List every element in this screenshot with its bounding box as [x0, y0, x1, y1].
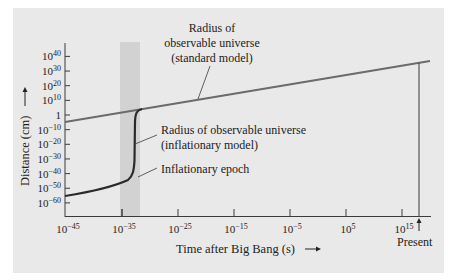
x-tick-label: 1015	[395, 222, 414, 235]
x-tick-label: 10−35	[112, 222, 136, 235]
y-axis-arrow-head	[23, 87, 28, 92]
standard-label-line3: (standard model)	[171, 51, 253, 65]
x-tick-label: 105	[341, 222, 356, 235]
x-tick-label: 10−5	[282, 222, 302, 235]
y-tick-label: 10−50	[37, 181, 61, 194]
y-tick-label: 1020	[42, 79, 61, 92]
y-tick-label: 10−40	[37, 167, 61, 180]
y-tick-label: 1	[56, 109, 62, 121]
y-tick-label: 10−10	[37, 123, 61, 136]
y-axis-title: Distance (cm)	[18, 116, 32, 186]
chart-svg: 1040103010201010110−1010−2010−3010−4010−…	[0, 0, 459, 280]
x-tick-label: 10−15	[224, 222, 248, 235]
y-tick-label: 1030	[42, 64, 61, 77]
x-ticks: 10−4510−3510−2510−1510−51051015	[56, 209, 413, 235]
y-tick-label: 10−30	[37, 152, 61, 165]
x-tick-label: 10−45	[56, 222, 80, 235]
present-arrow-head	[417, 218, 422, 223]
standard-model-line	[65, 61, 430, 122]
inflation-label-line2: (inflationary model)	[161, 138, 258, 152]
epoch-label: Inflationary epoch	[161, 162, 249, 176]
x-axis-title: Time after Big Bang (s)	[176, 242, 295, 256]
y-tick-label: 1040	[42, 49, 61, 62]
y-tick-label: 1010	[42, 93, 61, 106]
x-axis-arrow-head	[316, 247, 321, 252]
standard-label-line1: Radius of	[189, 21, 235, 35]
x-tick-label: 10−25	[168, 222, 192, 235]
inflationary-epoch-band	[120, 42, 140, 216]
epoch-leader-line	[138, 168, 157, 177]
standard-label-line2: observable universe	[164, 36, 260, 50]
y-tick-label: 10−60	[37, 196, 61, 209]
standard-leader-line	[198, 66, 210, 99]
inflation-label-line1: Radius of observable universe	[161, 123, 306, 137]
present-label: Present	[397, 235, 433, 249]
y-tick-label: 10−20	[37, 137, 61, 150]
